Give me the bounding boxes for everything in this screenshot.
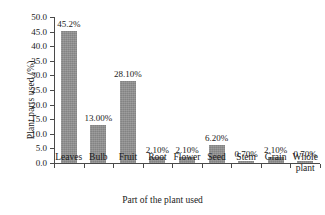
- y-tick-label: 25.0: [13, 86, 47, 95]
- y-tick-mark: [50, 90, 54, 91]
- x-tick-mark: [202, 164, 203, 168]
- plot-area: 0.05.010.015.020.025.030.035.040.045.050…: [54, 17, 320, 163]
- x-category-label: Whole plant: [281, 152, 325, 173]
- y-tick-label: 50.0: [13, 13, 47, 22]
- y-tick-label: 40.0: [13, 42, 47, 51]
- bar-chart: Plant parts used (%) 0.05.010.015.020.02…: [0, 0, 325, 215]
- y-tick-label: 5.0: [13, 144, 47, 153]
- y-tick-mark: [50, 17, 54, 18]
- x-tick-mark: [172, 164, 173, 168]
- y-tick-label: 30.0: [13, 71, 47, 80]
- x-tick-mark: [84, 164, 85, 168]
- x-tick-mark: [143, 164, 144, 168]
- y-tick-mark: [50, 61, 54, 62]
- y-tick-label: 0.0: [13, 159, 47, 168]
- bar-value-label: 45.2%: [46, 20, 92, 29]
- x-tick-mark: [113, 164, 114, 168]
- y-tick-mark: [50, 46, 54, 47]
- x-axis-title: Part of the plant used: [0, 196, 325, 206]
- y-tick-label: 10.0: [13, 129, 47, 138]
- x-tick-mark: [54, 164, 55, 168]
- x-axis-line: [54, 163, 320, 164]
- y-tick-mark: [50, 148, 54, 149]
- y-tick-label: 35.0: [13, 56, 47, 65]
- bar-value-label: 6.20%: [194, 134, 240, 143]
- bar: [61, 31, 77, 163]
- y-axis-line: [54, 17, 55, 164]
- x-tick-mark: [261, 164, 262, 168]
- y-tick-mark: [50, 32, 54, 33]
- x-tick-mark: [231, 164, 232, 168]
- y-tick-label: 45.0: [13, 27, 47, 36]
- bar-value-label: 13.00%: [75, 114, 121, 123]
- y-tick-mark: [50, 119, 54, 120]
- y-tick-label: 20.0: [13, 100, 47, 109]
- y-tick-mark: [50, 134, 54, 135]
- y-tick-mark: [50, 75, 54, 76]
- bar-value-label: 28.10%: [105, 70, 151, 79]
- y-tick-mark: [50, 105, 54, 106]
- y-tick-label: 15.0: [13, 115, 47, 124]
